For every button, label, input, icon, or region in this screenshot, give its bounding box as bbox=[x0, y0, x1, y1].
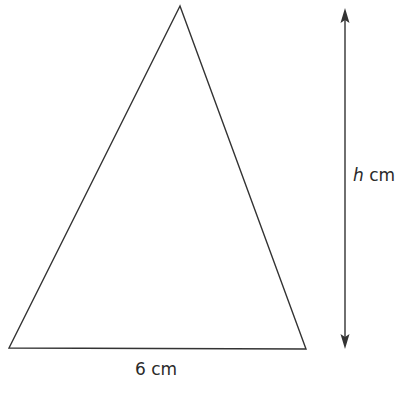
height-label: h cm bbox=[353, 167, 395, 184]
triangle bbox=[9, 6, 306, 349]
diagram-canvas bbox=[0, 0, 412, 399]
height-unit: cm bbox=[369, 165, 395, 185]
base-label: 6 cm bbox=[135, 361, 177, 378]
height-variable: h bbox=[353, 165, 364, 185]
